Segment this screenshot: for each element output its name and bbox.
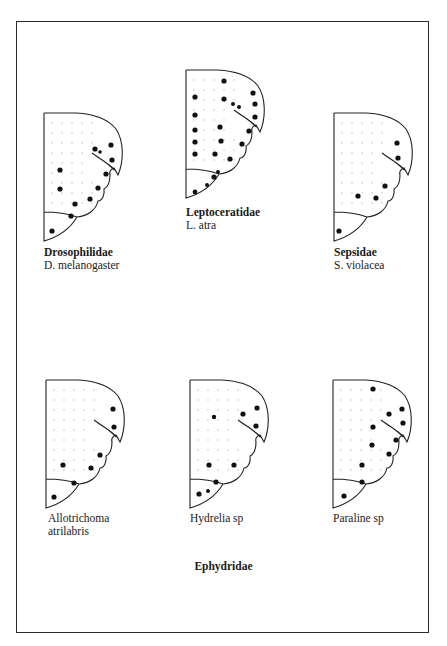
grid-dot (227, 429, 228, 430)
wing-outline (44, 113, 122, 241)
grid-dot (223, 149, 224, 150)
grid-dot (193, 119, 194, 120)
grid-dot (61, 162, 62, 163)
grid-dot (51, 172, 52, 173)
sensilla-dot (240, 411, 245, 416)
grid-dot (203, 79, 204, 80)
grid-dot (370, 459, 371, 460)
grid-dot (83, 419, 84, 420)
grid-dot (81, 162, 82, 163)
sensilla-dot (395, 155, 400, 160)
grid-dot (227, 469, 228, 470)
grid-dot (380, 449, 381, 450)
grid-dot (71, 142, 72, 143)
grid-dot (351, 182, 352, 183)
grid-dot (93, 459, 94, 460)
sensilla-dot (227, 156, 232, 161)
sensilla-dot (108, 142, 113, 147)
grid-dot (51, 122, 52, 123)
grid-dot (203, 89, 204, 90)
grid-dot (63, 439, 64, 440)
grid-dot (237, 459, 238, 460)
grid-dot (83, 399, 84, 400)
grid-dot (371, 152, 372, 153)
sensilla-dot (246, 128, 251, 133)
grid-dot (73, 399, 74, 400)
grid-dot (71, 182, 72, 183)
grid-dot (361, 192, 362, 193)
sensilla-dot (192, 151, 197, 156)
grid-dot (233, 149, 234, 150)
grid-dot (351, 142, 352, 143)
grid-dot (341, 132, 342, 133)
grid-dot (213, 109, 214, 110)
sensilla-dot (213, 479, 218, 484)
sensilla-dot (237, 105, 241, 109)
grid-dot (371, 172, 372, 173)
grid-dot (237, 409, 238, 410)
sensilla-dot (355, 193, 360, 198)
grid-dot (350, 389, 351, 390)
sensilla-dot (221, 78, 226, 83)
grid-dot (380, 399, 381, 400)
grid-dot (207, 399, 208, 400)
sensilla-dot (252, 114, 257, 119)
sensilla-dot (216, 170, 220, 174)
sensilla-dot (72, 201, 77, 206)
grid-dot (370, 429, 371, 430)
grid-dot (73, 429, 74, 430)
grid-dot (93, 449, 94, 450)
sensilla-dot (88, 465, 93, 470)
grid-dot (237, 469, 238, 470)
grid-dot (73, 389, 74, 390)
grid-dot (381, 192, 382, 193)
label-paraline: Paraline sp (333, 512, 384, 525)
grid-dot (213, 149, 214, 150)
grid-dot (233, 159, 234, 160)
wing-allotrichoma (46, 380, 124, 508)
grid-dot (217, 389, 218, 390)
grid-dot (371, 182, 372, 183)
grid-dot (73, 449, 74, 450)
grid-dot (213, 159, 214, 160)
grid-dot (91, 182, 92, 183)
wing-outline (190, 380, 268, 508)
grid-dot (63, 399, 64, 400)
grid-dot (361, 142, 362, 143)
sensilla-dot (103, 171, 108, 176)
grid-dot (213, 79, 214, 80)
species-name: L. atra (186, 219, 260, 232)
grid-dot (351, 172, 352, 173)
grid-dot (53, 419, 54, 420)
grid-dot (233, 139, 234, 140)
grid-dot (63, 389, 64, 390)
grid-dot (371, 202, 372, 203)
grid-dot (217, 419, 218, 420)
grid-dot (361, 152, 362, 153)
species-name: Allotrichoma (48, 512, 109, 525)
grid-dot (197, 459, 198, 460)
sensilla-dot (212, 151, 217, 156)
grid-dot (61, 182, 62, 183)
grid-dot (71, 132, 72, 133)
grid-dot (340, 449, 341, 450)
grid-dot (227, 419, 228, 420)
grid-dot (227, 409, 228, 410)
sensilla-dot (57, 186, 62, 191)
grid-dot (73, 439, 74, 440)
grid-dot (371, 132, 372, 133)
wing-outline (186, 70, 264, 198)
sensilla-dot (109, 157, 114, 162)
grid-dot (361, 202, 362, 203)
grid-dot (340, 389, 341, 390)
grid-dot (213, 89, 214, 90)
grid-dot (197, 429, 198, 430)
grid-dot (207, 449, 208, 450)
species-name: Hydrelia sp (190, 512, 243, 525)
grid-dot (193, 159, 194, 160)
grid-dot (233, 89, 234, 90)
grid-dot (53, 399, 54, 400)
sensilla-dot (217, 124, 222, 129)
grid-dot (227, 459, 228, 460)
group-label-ephydridae: Ephydridae (0, 560, 447, 572)
